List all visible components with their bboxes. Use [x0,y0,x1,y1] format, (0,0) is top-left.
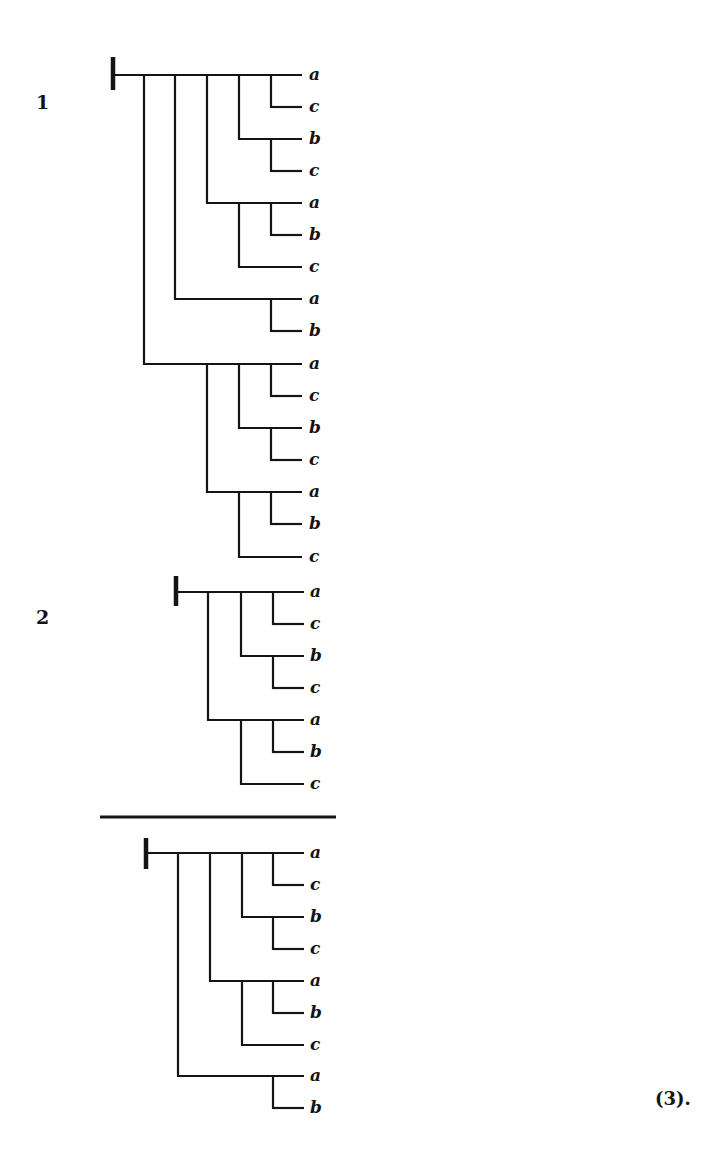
leaf-label-a: a [310,970,321,990]
leaf-label-c: c [310,1034,321,1054]
leaf-label-b: b [310,1097,322,1117]
leaf-label-b: b [310,645,322,665]
leaf-label-b: b [309,224,321,244]
leaf-label-c: c [310,613,321,633]
branch: c [241,719,321,793]
leaf-label-a: a [310,842,321,862]
leaf-label-b: b [309,128,321,148]
equation-reference: (3). [655,1088,691,1109]
leaf-label-a: a [309,64,320,84]
leaf-label-a: a [310,581,321,601]
branch: a [144,74,320,373]
leaf-label-c: c [309,385,320,405]
leaf-label-a: a [310,709,321,729]
leaf-label-a: a [310,1065,321,1085]
leaf-label-a: a [309,481,320,501]
leaf-label-c: c [309,160,320,180]
branch: c [239,202,320,276]
branch: a [178,852,321,1085]
leaf-label-a: a [309,192,320,212]
branch: a [207,363,320,501]
leaf-label-c: c [309,449,320,469]
leaf-label-c: c [310,773,321,793]
branch: c [239,491,320,566]
leaf-label-b: b [309,513,321,533]
leaf-label-a: a [309,353,320,373]
branch: a [210,852,321,990]
leaf-label-b: b [310,741,322,761]
tree-2-number: 2 [36,606,49,628]
branch: a [208,591,321,729]
leaf-label-b: b [309,417,321,437]
tree-1: acbcabcabacbcabc [113,57,321,566]
leaf-label-c: c [309,256,320,276]
tree-1-number: 1 [36,91,49,113]
branch: a [175,74,320,308]
leaf-label-c: c [310,677,321,697]
leaf-label-c: c [309,546,320,566]
tree-diagram-canvas: acbcabcabacbcabcacbcabcacbcabcab [0,0,724,1162]
tree-3: acbcabcab [146,838,322,1117]
branch: a [146,842,321,862]
leaf-label-b: b [309,320,321,340]
leaf-label-b: b [310,1002,322,1022]
trees-layer: acbcabcabacbcabcacbcabcacbcabcab [113,57,322,1117]
tree-2: acbcabc [176,576,322,793]
leaf-label-b: b [310,906,322,926]
leaf-label-c: c [310,874,321,894]
branch: a [176,581,321,601]
leaf-label-c: c [310,938,321,958]
leaf-label-a: a [309,288,320,308]
branch: a [207,74,320,212]
leaf-label-c: c [309,96,320,116]
